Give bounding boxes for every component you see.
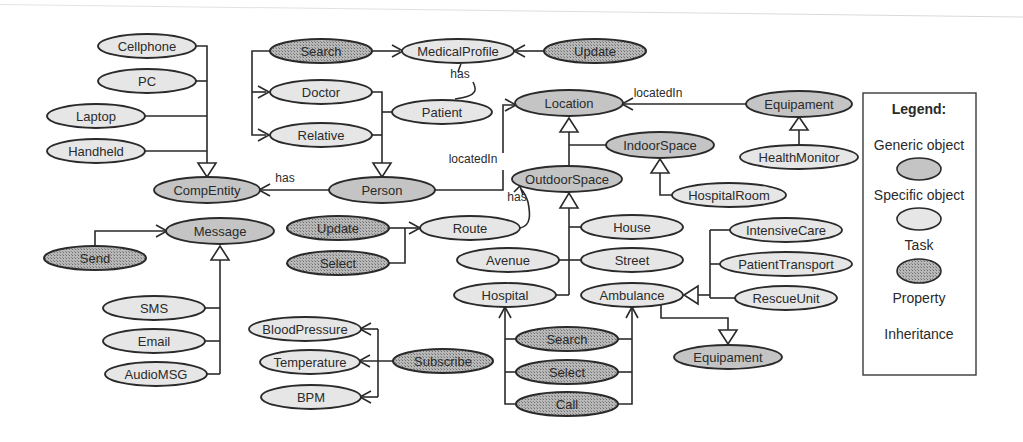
node-location: Location (515, 90, 623, 116)
node-label: SMS (140, 301, 169, 316)
edge-person-locatedin-a (435, 170, 503, 190)
inherit-triangle-outdoor (560, 193, 578, 208)
node-label: Cellphone (118, 39, 177, 54)
node-label: Search (546, 332, 587, 347)
node-label: Select (549, 365, 586, 380)
node-laptop: Laptop (47, 104, 145, 128)
node-label: Relative (298, 128, 345, 143)
node-label: CompEntity (173, 183, 241, 198)
node-label: Equipament (693, 350, 763, 365)
nodes-group: CellphonePCLaptopHandheldCompEntitySearc… (44, 34, 858, 416)
inherit-triangle-location (560, 118, 578, 132)
node-label: Ambulance (599, 288, 664, 303)
node-indoorspace: IndoorSpace (606, 132, 714, 158)
node-label: IndoorSpace (623, 138, 697, 153)
node-street: Street (581, 248, 683, 272)
node-label: Avenue (486, 253, 530, 268)
node-hospital: Hospital (454, 283, 556, 307)
node-relative: Relative (270, 123, 372, 147)
node-handheld: Handheld (47, 139, 145, 163)
ontology-diagram: CellphonePCLaptopHandheldCompEntitySearc… (0, 0, 1023, 442)
node-label: Select (320, 256, 357, 271)
node-medicalprofile: MedicalProfile (402, 39, 514, 63)
diagram-canvas: CellphonePCLaptopHandheldCompEntitySearc… (0, 0, 1023, 442)
node-label: Message (194, 224, 247, 239)
edge-ambulance-equipament (661, 305, 728, 330)
node-label: Update (317, 221, 359, 236)
node-search1: Search (270, 39, 372, 63)
node-call: Call (516, 392, 618, 416)
node-select1: Select (287, 251, 389, 275)
inherit-triangle-ambulance (684, 286, 698, 304)
node-search2: Search (516, 327, 618, 351)
edge-label-has-medicalprofile: has (450, 67, 469, 81)
node-intensivecare: IntensiveCare (730, 218, 842, 242)
inherit-triangle-compentity (198, 163, 216, 177)
node-label: Hospital (482, 288, 529, 303)
node-label: Email (138, 334, 171, 349)
edge-label-has-route: has (507, 190, 526, 204)
node-select2: Select (516, 360, 618, 384)
node-route: Route (420, 216, 520, 240)
edge-ambulance-tasks (618, 307, 632, 404)
node-label: PatientTransport (738, 257, 834, 272)
node-label: AudioMSG (125, 367, 188, 382)
node-temperature: Temperature (260, 350, 360, 374)
node-house: House (581, 215, 683, 239)
node-rescueunit: RescueUnit (735, 286, 837, 310)
edge-cellphone-compentity (196, 46, 207, 166)
node-label: Search (300, 44, 341, 59)
node-label: Location (544, 96, 593, 111)
node-label: Person (361, 183, 402, 198)
node-email: Email (103, 329, 205, 353)
node-label: Route (453, 221, 488, 236)
node-patient: Patient (392, 100, 492, 124)
edge-hospital-tasks (505, 307, 516, 404)
legend-swatch-task (897, 259, 941, 283)
node-update2: Update (287, 216, 389, 240)
edge-label-has-compentity: has (275, 171, 294, 185)
edge-send-message (95, 231, 166, 246)
inherit-triangle-message (211, 246, 229, 260)
node-healthmonitor: HealthMonitor (740, 145, 858, 169)
edge-person-locatedin-b (503, 105, 515, 153)
node-equipament1: Equipament (746, 91, 852, 117)
edge-doctor-person (372, 92, 382, 166)
node-label: Temperature (274, 355, 347, 370)
node-compentity: CompEntity (154, 177, 260, 203)
node-label: OutdoorSpace (525, 172, 609, 187)
legend-label-task: Task (905, 237, 935, 253)
node-label: HospitalRoom (688, 188, 770, 203)
node-label: Call (556, 397, 579, 412)
node-doctor: Doctor (270, 80, 372, 104)
legend-label-property: Property (893, 290, 946, 306)
legend-swatch-specific (897, 208, 941, 230)
node-label: Doctor (302, 85, 341, 100)
legend: Legend: Generic object Specific object T… (863, 93, 976, 375)
edge-select-route (389, 228, 405, 263)
node-label: Laptop (76, 109, 116, 124)
node-ambulance: Ambulance (581, 283, 683, 307)
node-label: Update (574, 44, 616, 59)
node-label: MedicalProfile (417, 44, 499, 59)
node-label: Send (80, 251, 110, 266)
node-label: Street (615, 253, 650, 268)
node-label: House (613, 220, 651, 235)
node-update1: Update (544, 39, 646, 63)
legend-label-specific: Specific object (874, 187, 964, 203)
inherit-triangle-person (373, 163, 391, 177)
node-sms: SMS (103, 296, 205, 320)
edge-patient-has (455, 82, 475, 99)
inherit-triangle-indoor (651, 159, 669, 173)
node-bloodpressure: BloodPressure (249, 317, 361, 341)
legend-swatch-generic (897, 158, 941, 180)
node-label: BPM (297, 390, 325, 405)
inherit-triangle-equipament (790, 117, 808, 130)
node-send: Send (44, 246, 146, 270)
node-hospitalroom: HospitalRoom (672, 183, 786, 207)
edge-hospitalroom-indoor (660, 172, 672, 195)
node-cellphone: Cellphone (98, 34, 196, 58)
node-outdoorspace: OutdoorSpace (512, 166, 622, 192)
node-person: Person (329, 177, 435, 203)
node-label: Subscribe (414, 354, 472, 369)
